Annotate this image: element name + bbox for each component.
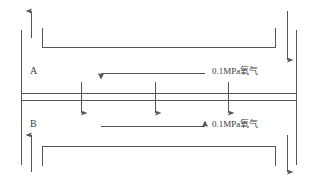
chamber-a-gas-label: 0.1MPa氧气 (212, 67, 258, 76)
membrane-separation-diagram (0, 0, 317, 177)
chamber-a-label: A (30, 66, 37, 76)
chamber-a-duct (43, 28, 276, 48)
chamber-b-label: B (30, 119, 37, 129)
chamber-b-gas-label: 0.1MPa氧气 (212, 120, 258, 129)
chamber-b-duct (43, 147, 276, 167)
